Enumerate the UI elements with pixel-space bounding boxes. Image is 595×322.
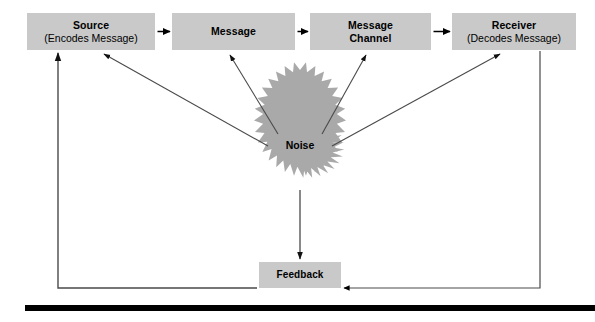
node-message-channel-title: Message bbox=[348, 19, 393, 31]
node-source-subtitle: (Encodes Message) bbox=[44, 32, 137, 44]
bottom-divider-rule bbox=[25, 305, 595, 311]
edge-receiver-to-feedback bbox=[344, 51, 540, 288]
node-feedback-title: Feedback bbox=[277, 269, 324, 281]
noise-starburst-shape bbox=[254, 62, 346, 178]
edge-feedback-to-source bbox=[58, 53, 257, 288]
edge-noise-to-source bbox=[104, 54, 268, 146]
node-message-title: Message bbox=[211, 25, 256, 37]
node-receiver-title: Receiver bbox=[492, 19, 537, 31]
node-message: Message bbox=[172, 13, 295, 50]
node-receiver-subtitle: (Decodes Message) bbox=[467, 32, 561, 44]
node-source: Source (Encodes Message) bbox=[27, 13, 155, 50]
node-source-title: Source bbox=[73, 19, 109, 31]
node-message-channel-title-line2: Channel bbox=[349, 32, 391, 44]
diagram-canvas: Source (Encodes Message) Message Message… bbox=[0, 0, 595, 322]
node-message-channel: Message Channel bbox=[310, 13, 431, 50]
node-receiver: Receiver (Decodes Message) bbox=[452, 13, 576, 50]
node-feedback: Feedback bbox=[259, 262, 341, 288]
edge-noise-to-receiver bbox=[332, 54, 500, 146]
